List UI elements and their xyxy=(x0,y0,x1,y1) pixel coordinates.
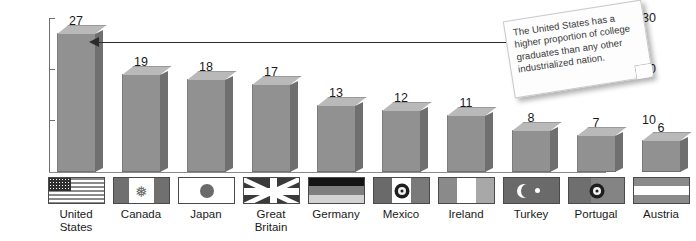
bar-value-japan: 18 xyxy=(176,60,236,74)
bar-value-united-states: 27 xyxy=(46,14,106,28)
category-label-austria: Austria xyxy=(623,208,696,221)
y-axis-line xyxy=(49,18,50,172)
bar-value-germany: 13 xyxy=(306,86,366,100)
callout-arrow-head-icon xyxy=(89,37,99,47)
category-label-line2: Britain xyxy=(255,221,288,233)
flag-great-britain-icon xyxy=(243,177,300,204)
flag-turkey-icon xyxy=(503,177,560,204)
category-label-line1: United xyxy=(59,208,92,220)
flag-united-states-icon xyxy=(48,177,105,204)
bar-value-canada: 19 xyxy=(111,55,171,69)
callout-curl-corner xyxy=(634,63,653,79)
flag-austria-icon xyxy=(633,177,690,204)
category-label-line2: States xyxy=(60,221,93,233)
bar-value-austria: 6 xyxy=(631,121,691,135)
flag-portugal-icon xyxy=(568,177,625,204)
flag-japan-icon xyxy=(178,177,235,204)
flag-germany-icon xyxy=(308,177,365,204)
flag-ireland-icon xyxy=(438,177,495,204)
bar-value-portugal: 7 xyxy=(566,116,626,130)
flag-mexico-icon xyxy=(373,177,430,204)
bar-value-turkey: 8 xyxy=(501,111,561,125)
callout-note-text: The United States has a higher proportio… xyxy=(512,9,644,76)
callout-note: The United States has a higher proportio… xyxy=(503,0,653,98)
cut-off-title xyxy=(28,0,628,7)
callout-arrow-line xyxy=(96,42,508,43)
bar-value-ireland: 11 xyxy=(436,96,496,110)
flag-canada-icon: ❅ xyxy=(113,177,170,204)
y-tick-10 xyxy=(49,120,55,121)
category-label-line1: Great xyxy=(257,208,286,220)
bar-value-mexico: 12 xyxy=(371,91,431,105)
bar-value-great-britain: 17 xyxy=(241,65,301,79)
y-tick-20 xyxy=(49,69,55,70)
